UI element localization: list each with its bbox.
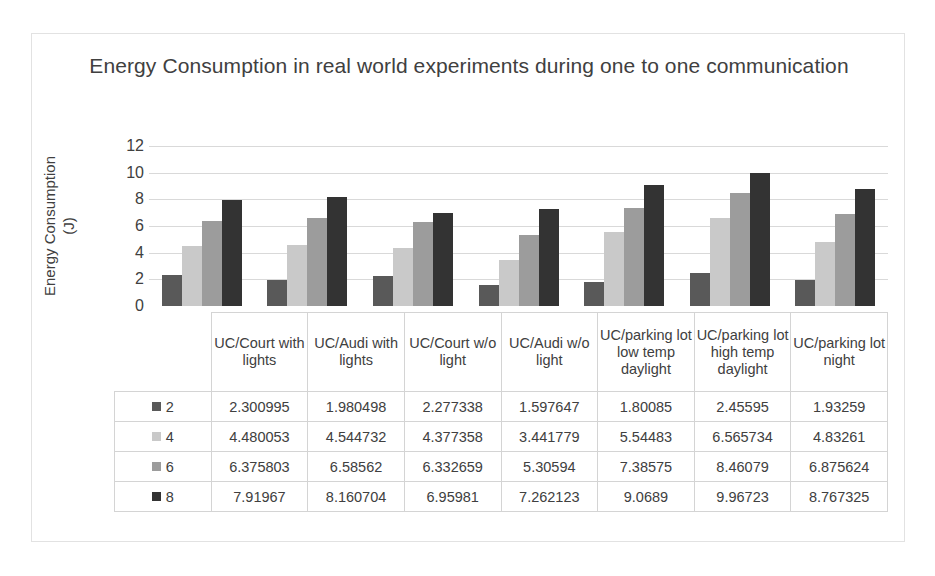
bar [182, 246, 202, 306]
bar [433, 213, 453, 306]
data-value-cell: 1.597647 [501, 392, 598, 422]
bar [479, 285, 499, 306]
bar [287, 245, 307, 306]
bar [519, 235, 539, 306]
bar [815, 242, 835, 306]
legend-swatch-icon [152, 492, 161, 501]
y-axis-tick-label: 2 [135, 271, 144, 287]
category-header-cell: UC/Audi w/o light [501, 313, 598, 392]
data-value-cell: 6.95981 [404, 482, 501, 512]
legend-series-label: 2 [166, 399, 174, 415]
bar [162, 275, 182, 306]
data-value-cell: 8.46079 [694, 452, 791, 482]
legend-swatch-icon [152, 402, 161, 411]
bar-group [571, 146, 677, 306]
category-header-cell: UC/parking lot night [791, 313, 888, 392]
data-value-cell: 1.93259 [791, 392, 888, 422]
data-value-cell: 8.767325 [791, 482, 888, 512]
data-value-cell: 6.875624 [791, 452, 888, 482]
legend-series-label: 6 [166, 459, 174, 475]
data-table: UC/Court with lightsUC/Audi with lightsU… [114, 312, 888, 512]
bar [795, 280, 815, 306]
bar [327, 197, 347, 306]
bar [413, 222, 433, 306]
data-value-cell: 4.377358 [404, 422, 501, 452]
data-value-cell: 9.0689 [598, 482, 695, 512]
bar [222, 200, 242, 306]
table-row: 87.919678.1607046.959817.2621239.06899.9… [115, 482, 888, 512]
bar [730, 193, 750, 306]
y-axis-tick-label: 12 [126, 138, 144, 154]
category-header-cell: UC/parking lot high temp daylight [694, 313, 791, 392]
chart-container: Energy Consumption in real world experim… [31, 33, 905, 542]
legend-key-cell: 6 [115, 452, 212, 482]
data-value-cell: 2.300995 [211, 392, 308, 422]
data-value-cell: 5.54483 [598, 422, 695, 452]
table-header: UC/Court with lightsUC/Audi with lightsU… [115, 313, 888, 392]
y-axis-tick-label: 6 [135, 218, 144, 234]
legend-key-cell: 2 [115, 392, 212, 422]
y-axis-tick-label: 8 [135, 191, 144, 207]
bar [267, 280, 287, 306]
data-value-cell: 6.332659 [404, 452, 501, 482]
bar [750, 173, 770, 306]
bar [307, 218, 327, 306]
legend-swatch-icon [152, 432, 161, 441]
data-value-cell: 8.160704 [308, 482, 405, 512]
y-axis-title-wrapper: Energy Consumption (J) [36, 139, 82, 319]
bar-groups [149, 146, 888, 306]
bar [393, 248, 413, 306]
bar [202, 221, 222, 306]
bar [499, 260, 519, 306]
data-value-cell: 3.441779 [501, 422, 598, 452]
bar [710, 218, 730, 306]
bar-group [677, 146, 783, 306]
y-axis-tick-labels: 121086420 [106, 146, 144, 306]
plot-area [149, 146, 888, 306]
category-header-cell: UC/Court w/o light [404, 313, 501, 392]
category-header-cell: UC/parking lot low temp daylight [598, 313, 695, 392]
data-value-cell: 1.980498 [308, 392, 405, 422]
data-value-cell: 5.30594 [501, 452, 598, 482]
data-value-cell: 6.58562 [308, 452, 405, 482]
data-value-cell: 7.38575 [598, 452, 695, 482]
data-value-cell: 4.480053 [211, 422, 308, 452]
bar [584, 282, 604, 306]
bar [604, 232, 624, 306]
legend-series-label: 8 [166, 489, 174, 505]
legend-swatch-icon [152, 462, 161, 471]
bar [539, 209, 559, 306]
bar-group [360, 146, 466, 306]
bar [855, 189, 875, 306]
y-axis-tick-label: 4 [135, 245, 144, 261]
bar [835, 214, 855, 306]
data-value-cell: 2.277338 [404, 392, 501, 422]
y-axis-tick-label: 10 [126, 165, 144, 181]
data-value-cell: 7.91967 [211, 482, 308, 512]
legend-key-cell: 4 [115, 422, 212, 452]
data-value-cell: 7.262123 [501, 482, 598, 512]
bar-group [149, 146, 255, 306]
data-value-cell: 6.565734 [694, 422, 791, 452]
bar [373, 276, 393, 306]
legend-series-label: 4 [166, 429, 174, 445]
legend-key-cell: 8 [115, 482, 212, 512]
bar-group [255, 146, 361, 306]
legend-corner-cell [115, 313, 212, 392]
data-value-cell: 1.80085 [598, 392, 695, 422]
table-body: 22.3009951.9804982.2773381.5976471.80085… [115, 392, 888, 512]
table-row: 66.3758036.585626.3326595.305947.385758.… [115, 452, 888, 482]
table-row: 44.4800534.5447324.3773583.4417795.54483… [115, 422, 888, 452]
table-header-row: UC/Court with lightsUC/Audi with lightsU… [115, 313, 888, 392]
bar [624, 208, 644, 306]
chart-title: Energy Consumption in real world experim… [32, 50, 906, 81]
bar [644, 185, 664, 306]
table-row: 22.3009951.9804982.2773381.5976471.80085… [115, 392, 888, 422]
category-header-cell: UC/Court with lights [211, 313, 308, 392]
category-header-cell: UC/Audi with lights [308, 313, 405, 392]
data-value-cell: 4.544732 [308, 422, 405, 452]
data-value-cell: 4.83261 [791, 422, 888, 452]
data-value-cell: 9.96723 [694, 482, 791, 512]
bar-group [466, 146, 572, 306]
bar [690, 273, 710, 306]
